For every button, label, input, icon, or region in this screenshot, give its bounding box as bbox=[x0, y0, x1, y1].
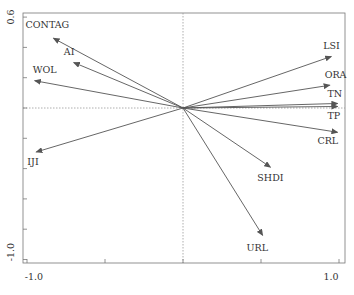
vector-iji: IJI bbox=[27, 108, 183, 167]
vector-label: IJI bbox=[27, 156, 39, 167]
vector-wol: WOL bbox=[33, 64, 183, 108]
vector-url: URL bbox=[183, 108, 269, 253]
vector-label: SHDI bbox=[257, 172, 283, 183]
vector-label: ORA bbox=[325, 69, 347, 80]
arrow-line bbox=[183, 108, 270, 167]
x-right-tick-label: 1.0 bbox=[323, 271, 338, 282]
vector-tn: TN bbox=[183, 88, 342, 108]
vector-label: TN bbox=[327, 88, 342, 99]
arrow-line bbox=[183, 108, 337, 132]
vector-label: AI bbox=[63, 46, 75, 57]
vector-lsi: LSI bbox=[183, 40, 340, 108]
arrow-line bbox=[35, 81, 183, 108]
vector-arrows: CONTAGAIWOLIJILSIORATNTPCRLSHDIURL bbox=[26, 19, 347, 253]
biplot-chart: 0.6 -1.0 -1.0 1.0 CONTAGAIWOLIJILSIORATN… bbox=[0, 0, 354, 295]
arrow-line bbox=[36, 108, 183, 152]
y-bottom-tick-label: -1.0 bbox=[5, 243, 16, 261]
vector-tp: TP bbox=[183, 106, 341, 121]
vector-label: URL bbox=[247, 242, 269, 253]
vector-label: WOL bbox=[33, 64, 58, 75]
vector-shdi: SHDI bbox=[183, 108, 284, 183]
vector-label: CRL bbox=[317, 135, 338, 146]
vector-label: TP bbox=[327, 110, 340, 121]
x-left-tick-label: -1.0 bbox=[25, 271, 43, 282]
arrow-line bbox=[183, 108, 263, 235]
vector-label: CONTAG bbox=[26, 19, 70, 30]
arrow-line bbox=[183, 56, 331, 108]
arrow-line bbox=[74, 63, 183, 108]
vector-crl: CRL bbox=[183, 108, 339, 146]
vector-ora: ORA bbox=[183, 69, 347, 108]
vector-label: LSI bbox=[323, 40, 340, 51]
y-top-tick-label: 0.6 bbox=[5, 9, 16, 24]
